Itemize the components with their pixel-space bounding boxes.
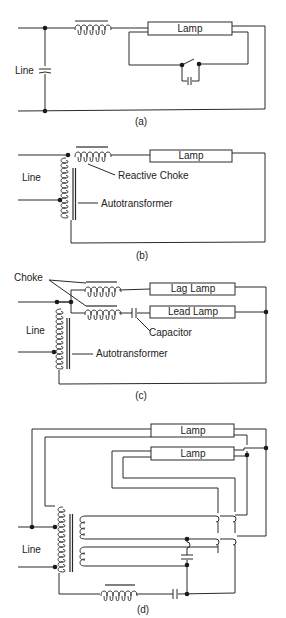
line-label-b: Line	[22, 172, 41, 183]
junction-dot	[66, 153, 71, 158]
junction-dot	[245, 453, 250, 458]
junction-dot	[185, 592, 190, 597]
wires-a	[18, 26, 265, 111]
line-label-a: Line	[15, 65, 34, 76]
junction-dot	[53, 525, 58, 530]
junction-dot	[53, 565, 58, 570]
lamp-label-a: Lamp	[177, 23, 202, 34]
junction-dot	[264, 310, 269, 315]
junction-dot	[43, 109, 48, 114]
lead-lamp-label: Lead Lamp	[168, 306, 218, 317]
junction-dot	[180, 63, 185, 68]
secondary-coil-lower-d	[80, 547, 85, 566]
capacitor-d-vertical	[181, 555, 193, 559]
autotransformer-c	[56, 309, 70, 369]
capacitor-c	[132, 308, 136, 318]
capacitor-label-c: Capacitor	[149, 327, 192, 338]
secondary-coil-upper-d	[80, 516, 85, 539]
panel-a: Lamp Line (a)	[15, 21, 265, 127]
line-label-d: Line	[22, 544, 41, 555]
junction-dot	[197, 62, 202, 67]
choke-label-c: Choke	[14, 272, 43, 283]
junction-dot	[185, 537, 190, 542]
junction-dot	[43, 26, 48, 31]
caption-b: (b)	[136, 250, 148, 261]
junction-dot	[30, 525, 35, 530]
fluorescent-lamp-circuits-figure: Lamp Line (a)	[0, 0, 286, 618]
choke-d	[101, 585, 137, 601]
panel-b: Lamp Line Reactive Choke Autotransformer…	[18, 147, 265, 261]
junction-dot	[69, 300, 74, 305]
primary-coil-d	[58, 507, 73, 572]
choke-a	[75, 21, 111, 35]
lamp-label-b: Lamp	[178, 150, 203, 161]
autotransformer-label-b: Autotransformer	[101, 198, 173, 209]
wires-c	[18, 280, 266, 384]
choke-lag-c	[85, 282, 121, 297]
reactive-choke-b	[75, 147, 111, 162]
caption-a: (a)	[135, 116, 147, 127]
junction-dot	[58, 198, 63, 203]
junction-dot	[264, 446, 269, 451]
autotransformer-label-c: Autotransformer	[96, 348, 168, 359]
junction-dot	[55, 300, 60, 305]
caption-c: (c)	[135, 390, 147, 401]
lamp-label-d-top: Lamp	[180, 425, 205, 436]
reactive-choke-label: Reactive Choke	[118, 170, 189, 181]
junction-dot	[185, 563, 190, 568]
line-label-c: Line	[26, 325, 45, 336]
lamp-label-d-bottom: Lamp	[180, 448, 205, 459]
autotransformer-b	[61, 158, 76, 220]
lag-lamp-label: Lag Lamp	[171, 283, 216, 294]
panel-c: Lag Lamp Lead Lamp Choke Capacitor Line …	[14, 272, 268, 401]
capacitor-d-horizontal	[173, 589, 177, 599]
caption-d: (d)	[137, 604, 149, 615]
choke-lead-c	[85, 306, 121, 320]
line-capacitor-a	[39, 69, 51, 73]
panel-d: Lamp Lamp Line (d)	[18, 424, 268, 615]
junction-dot	[52, 350, 57, 355]
